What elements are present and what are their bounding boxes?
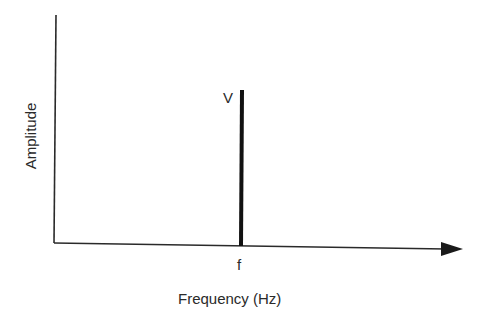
x-axis xyxy=(54,243,446,249)
x-axis-arrowhead xyxy=(441,242,463,256)
spectral-line xyxy=(241,90,242,246)
frequency-value-label: f xyxy=(237,256,241,273)
spectrum-diagram xyxy=(0,0,483,334)
y-axis xyxy=(54,15,56,243)
y-axis-label: Amplitude xyxy=(22,103,39,170)
x-axis-label: Frequency (Hz) xyxy=(178,290,281,307)
amplitude-value-label: V xyxy=(223,89,233,106)
